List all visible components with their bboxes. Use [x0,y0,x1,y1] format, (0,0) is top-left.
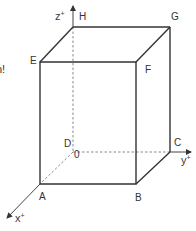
cube-diagram [0,0,196,231]
vertex-label-d: D [64,139,71,149]
vertex-label-c: C [174,138,181,148]
origin-label: 0 [74,150,80,160]
vertex-label-f: F [145,65,151,75]
visible-edges [40,27,170,184]
x-axis-name: x [15,212,21,224]
edge-BC [136,152,170,184]
edge-FG [136,27,170,62]
x-axis-sign: + [21,212,25,219]
vertex-label-g: G [171,12,179,22]
axes [7,6,191,218]
vertex-label-b: B [135,193,142,203]
hidden-edges [40,27,170,184]
cut-off-text: n! [0,63,5,75]
vertex-label-e: E [30,56,37,66]
front-face [40,62,136,184]
vertex-label-h: H [79,12,86,22]
z-axis-sign: + [61,10,65,17]
vertex-label-a: A [39,192,46,202]
z-axis-name: z [55,10,61,22]
y-axis-name: y [181,154,187,166]
y-axis-sign: + [187,154,191,161]
z-axis-label: z+ [55,11,65,21]
y-axis-label: y+ [181,155,191,165]
edge-EH [40,27,73,62]
x-axis-label: x+ [15,213,25,223]
edge-DA [40,152,73,184]
